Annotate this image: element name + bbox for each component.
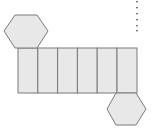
dot-marker-3 xyxy=(136,13,138,15)
prism-net-diagram xyxy=(0,0,153,129)
dot-marker-4 xyxy=(136,19,138,21)
rectangular-face-5 xyxy=(97,48,117,93)
rectangular-face-2 xyxy=(38,48,58,93)
bottom-hexagon-face xyxy=(107,93,146,125)
rectangular-faces xyxy=(18,48,137,93)
dotted-line xyxy=(136,1,138,32)
top-hexagon-face xyxy=(4,15,48,48)
dot-marker-1 xyxy=(136,1,138,3)
rectangular-face-4 xyxy=(77,48,97,93)
rectangular-face-3 xyxy=(58,48,78,93)
dot-marker-5 xyxy=(136,25,138,27)
rectangular-face-1 xyxy=(18,48,38,93)
dot-marker-2 xyxy=(136,7,138,9)
dot-marker-6 xyxy=(136,30,138,32)
rectangular-face-6 xyxy=(117,48,137,93)
